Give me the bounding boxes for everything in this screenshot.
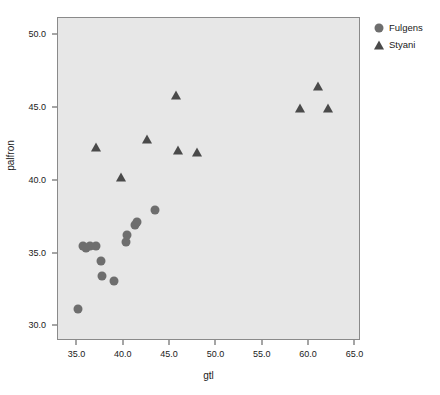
y-tick-mark: [52, 34, 57, 35]
data-point-triangle: [116, 172, 126, 181]
x-tick-mark: [122, 340, 123, 345]
y-tick-mark: [52, 252, 57, 253]
plot-area: [57, 17, 360, 340]
x-tick-label: 40.0: [114, 349, 132, 359]
legend-label: Styani: [389, 39, 415, 50]
y-tick-label: 50.0: [6, 29, 46, 39]
data-point-circle: [132, 217, 141, 226]
data-point-circle: [91, 242, 100, 251]
data-point-triangle: [142, 134, 152, 143]
x-tick-label: 65.0: [346, 349, 364, 359]
data-point-triangle: [323, 104, 333, 113]
y-tick-label: 45.0: [6, 102, 46, 112]
data-point-triangle: [91, 143, 101, 152]
data-point-triangle: [171, 91, 181, 100]
legend-swatch-circle: [373, 22, 384, 33]
legend-label: Fulgens: [389, 22, 423, 33]
y-tick-mark: [52, 325, 57, 326]
data-point-triangle: [192, 147, 202, 156]
y-tick-mark: [52, 179, 57, 180]
data-point-triangle: [295, 104, 305, 113]
x-tick-label: 35.0: [68, 349, 86, 359]
x-tick-mark: [169, 340, 170, 345]
x-tick-label: 45.0: [160, 349, 178, 359]
legend-entry-fulgens[interactable]: Fulgens: [373, 22, 423, 33]
x-tick-label: 55.0: [253, 349, 271, 359]
legend: FulgensStyani: [373, 22, 423, 50]
x-tick-mark: [308, 340, 309, 345]
data-point-triangle: [173, 146, 183, 155]
data-point-circle: [73, 304, 82, 313]
data-point-circle: [96, 256, 105, 265]
data-point-circle: [97, 271, 106, 280]
data-point-triangle: [313, 82, 323, 91]
data-point-circle: [122, 230, 131, 239]
y-axis-title: palfron: [5, 126, 16, 186]
scatter-plot-figure: 30.035.040.045.050.0 35.040.045.050.055.…: [0, 0, 440, 395]
legend-swatch-triangle: [373, 39, 384, 50]
x-tick-label: 60.0: [299, 349, 317, 359]
y-tick-label: 30.0: [6, 320, 46, 330]
data-point-circle: [374, 23, 383, 32]
data-point-circle: [151, 206, 160, 215]
data-point-triangle: [374, 40, 384, 49]
x-tick-mark: [354, 340, 355, 345]
x-tick-mark: [261, 340, 262, 345]
y-tick-label: 35.0: [6, 248, 46, 258]
x-tick-mark: [76, 340, 77, 345]
x-axis-title: gtl: [57, 370, 360, 381]
x-tick-label: 50.0: [207, 349, 225, 359]
x-tick-mark: [215, 340, 216, 345]
data-point-circle: [109, 277, 118, 286]
y-tick-mark: [52, 107, 57, 108]
legend-entry-styani[interactable]: Styani: [373, 39, 423, 50]
